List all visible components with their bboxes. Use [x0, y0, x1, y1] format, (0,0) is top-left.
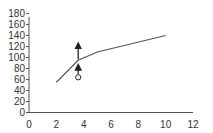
open-circle-marker — [76, 75, 81, 80]
axes — [26, 17, 193, 113]
y-tick-label: 0 — [19, 107, 25, 118]
y-tick-label: 160 — [8, 19, 25, 30]
y-tick-label: 20 — [14, 96, 26, 107]
x-tick-label: 10 — [160, 119, 172, 130]
y-tick-label: 60 — [14, 74, 26, 85]
x-tick-label: 6 — [108, 119, 114, 130]
line-chart: 020406080100120140160180 024681012 — [0, 0, 213, 133]
y-tick-label: 80 — [14, 63, 26, 74]
x-tick-label: 0 — [26, 119, 32, 130]
y-tick-label: 140 — [8, 30, 25, 41]
y-tick-label: 100 — [8, 52, 25, 63]
y-tick-label: 40 — [14, 85, 26, 96]
x-tick-label: 8 — [136, 119, 142, 130]
y-tick-label: 180 — [8, 8, 25, 19]
y-tick-labels: 020406080100120140160180 — [8, 8, 29, 118]
data-line — [56, 36, 165, 83]
x-tick-label: 12 — [187, 119, 199, 130]
x-tick-label: 2 — [54, 119, 60, 130]
x-tick-labels: 024681012 — [26, 119, 199, 130]
x-tick-label: 4 — [81, 119, 87, 130]
y-tick-label: 120 — [8, 41, 25, 52]
